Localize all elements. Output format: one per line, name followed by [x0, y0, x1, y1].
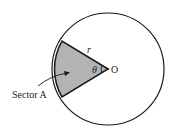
angle-label: θ	[92, 64, 97, 75]
center-point	[107, 68, 109, 70]
sector-diagram: r θ O Sector A	[0, 0, 177, 129]
sector-label: Sector A	[12, 89, 47, 100]
center-label: O	[111, 64, 118, 75]
radius-label: r	[87, 44, 91, 55]
